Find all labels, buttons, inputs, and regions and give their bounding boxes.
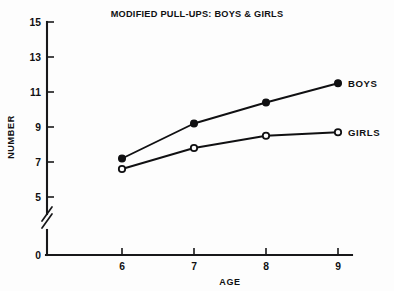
- x-tick-label-7: 7: [191, 261, 197, 272]
- data-point-girls-age-6: [119, 166, 125, 172]
- series-layer: [119, 80, 342, 172]
- x-tick-label-8: 8: [263, 261, 269, 272]
- y-tick-label-7: 7: [35, 157, 41, 168]
- data-point-girls-age-9: [335, 129, 341, 135]
- chart-title: MODIFIED PULL-UPS: BOYS & GIRLS: [111, 9, 284, 19]
- series-line-girls: [122, 132, 338, 169]
- y-axis-title: NUMBER: [6, 115, 16, 159]
- data-point-girls-age-8: [263, 133, 269, 139]
- chart-figure: MODIFIED PULL-UPS: BOYS & GIRLS NUMBER A…: [0, 0, 394, 291]
- x-tick-label-9: 9: [335, 261, 341, 272]
- data-point-boys-age-9: [335, 80, 342, 87]
- y-tick-label-9: 9: [35, 122, 41, 133]
- data-point-boys-age-7: [191, 120, 198, 127]
- y-tick-label-5: 5: [35, 192, 41, 203]
- series-label-girls: GIRLS: [348, 127, 380, 138]
- data-point-boys-age-6: [119, 155, 126, 162]
- line-chart-canvas: MODIFIED PULL-UPS: BOYS & GIRLS NUMBER A…: [0, 0, 394, 291]
- y-tick-label-15: 15: [30, 17, 42, 28]
- x-tick-label-6: 6: [119, 261, 125, 272]
- y-tick-label-11: 11: [30, 87, 41, 98]
- series-label-boys: BOYS: [348, 78, 378, 89]
- data-point-boys-age-8: [263, 99, 270, 106]
- y-tick-label-13: 13: [30, 52, 42, 63]
- series-line-boys: [122, 83, 338, 158]
- y-tick-label-0: 0: [35, 250, 41, 261]
- data-point-girls-age-7: [191, 145, 197, 151]
- x-axis-title: AGE: [219, 277, 241, 287]
